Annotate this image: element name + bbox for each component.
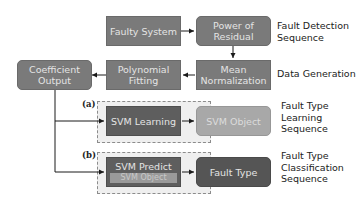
svm-object-node: SVM Object [196,106,271,136]
faulty-system-node: Faulty System [106,16,181,46]
mean-normalization-node: Mean Normalization [196,60,271,90]
polynomial-fitting-line1: Polynomial [118,64,170,75]
svm-object-label: SVM Object [206,116,261,127]
coefficient-output-node: Coefficient Output [17,60,92,90]
polynomial-fitting-node: Polynomial Fitting [106,60,181,90]
power-of-residual-line2: Residual [213,31,253,42]
fault-type-classification-sequence-label: Fault Type Classification Sequence [281,150,344,185]
tag-b: (b) [82,150,96,160]
fault-type-learning-sequence-label: Fault Type Learning Sequence [281,100,329,135]
tag-a: (a) [82,99,96,109]
fault-type-label: Fault Type [210,167,258,178]
faulty-system-label: Faulty System [110,26,177,37]
svm-learning-label: SVM Learning [111,116,176,127]
power-of-residual-line1: Power of [213,20,254,31]
fault-type-node: Fault Type [196,157,271,187]
svm-predict-label: SVM Predict [115,161,171,172]
data-generation-label: Data Generation [277,68,356,80]
fault-detection-sequence-label: Fault Detection Sequence [277,20,349,43]
coefficient-output-line2: Output [38,75,71,86]
svm-predict-node: SVM Predict SVM Object [106,157,181,187]
polynomial-fitting-line2: Fitting [129,75,159,86]
svm-learning-node: SVM Learning [106,106,181,136]
svm-predict-embedded-object: SVM Object [110,173,177,183]
coefficient-output-line1: Coefficient [29,64,80,75]
mean-normalization-line2: Normalization [200,75,266,86]
mean-normalization-line1: Mean [221,64,247,75]
power-of-residual-node: Power of Residual [196,16,271,46]
